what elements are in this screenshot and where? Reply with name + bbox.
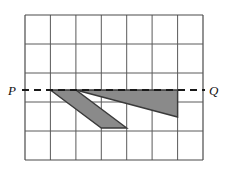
figure-background: [0, 0, 228, 176]
geometry-figure: [0, 0, 228, 176]
label-q: Q: [209, 84, 218, 97]
label-p: P: [8, 84, 16, 97]
